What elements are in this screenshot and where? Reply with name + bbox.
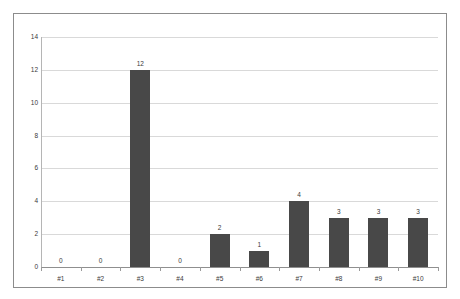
gridline	[41, 103, 438, 104]
bar	[130, 70, 150, 267]
x-axis-category-label: #3	[137, 276, 144, 283]
y-axis-line	[41, 37, 42, 268]
x-axis-tick	[279, 267, 280, 271]
x-axis-tick	[200, 267, 201, 271]
bar	[408, 218, 428, 267]
x-axis-category-label: #8	[335, 276, 342, 283]
bar-value-label: 0	[99, 258, 103, 265]
y-axis-tick-label: 14	[16, 34, 38, 41]
bar-value-label: 0	[59, 258, 63, 265]
gridline	[41, 70, 438, 71]
x-axis-tick	[359, 267, 360, 271]
y-axis-tick-label: 2	[16, 231, 38, 238]
gridline	[41, 37, 438, 38]
gridline	[41, 168, 438, 169]
bar	[289, 201, 309, 267]
x-axis-tick	[319, 267, 320, 271]
bar	[329, 218, 349, 267]
bar-value-label: 0	[178, 258, 182, 265]
x-axis-tick	[398, 267, 399, 271]
x-axis-category-label: #5	[216, 276, 223, 283]
x-axis-category-label: #9	[375, 276, 382, 283]
bar-value-label: 4	[297, 192, 301, 199]
bar-value-label: 12	[137, 61, 144, 68]
bar	[210, 234, 230, 267]
bar-value-label: 3	[337, 209, 341, 216]
y-axis-tick-label: 12	[16, 67, 38, 74]
bar	[249, 251, 269, 267]
gridline	[41, 136, 438, 137]
x-axis-tick	[160, 267, 161, 271]
bar-value-label: 1	[258, 242, 262, 249]
x-axis-category-label: #4	[176, 276, 183, 283]
y-axis-tick-label: 0	[16, 264, 38, 271]
bar-value-label: 2	[218, 225, 222, 232]
x-axis-tick	[81, 267, 82, 271]
bar-value-label: 3	[416, 209, 420, 216]
bar	[368, 218, 388, 267]
y-axis-tick-labels: 02468101214	[14, 37, 38, 268]
x-axis-category-label: #7	[295, 276, 302, 283]
bar-value-label: 3	[377, 209, 381, 216]
y-axis-tick-label: 6	[16, 165, 38, 172]
x-axis-tick	[438, 267, 439, 271]
y-axis-tick-label: 8	[16, 132, 38, 139]
gridline	[41, 201, 438, 202]
bar-chart-figure: 02468101214 00120214333 #1#2#3#4#5#6#7#8…	[13, 13, 447, 288]
x-axis-tick	[240, 267, 241, 271]
x-axis-category-label: #6	[256, 276, 263, 283]
x-axis-tick	[41, 267, 42, 271]
x-axis-tick	[120, 267, 121, 271]
x-axis-category-label: #10	[413, 276, 424, 283]
y-axis-tick-label: 4	[16, 198, 38, 205]
x-axis-category-label: #1	[57, 276, 64, 283]
x-axis-category-label: #2	[97, 276, 104, 283]
y-axis-tick-label: 10	[16, 99, 38, 106]
